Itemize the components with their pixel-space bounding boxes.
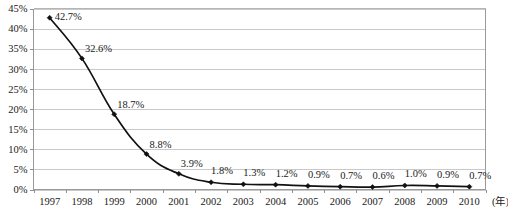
x-axis-tick-label: 2002 — [201, 196, 222, 207]
data-point-label: 0.9% — [437, 169, 459, 180]
data-point-label: 0.7% — [469, 170, 491, 181]
x-axis-tick-label: 2005 — [297, 196, 318, 207]
chart-canvas: 0%5%10%15%20%25%30%35%40%45% 19971998199… — [0, 0, 508, 219]
data-point-label: 32.6% — [85, 43, 112, 54]
x-axis-tick-label: 1998 — [71, 196, 92, 207]
data-point-label: 1.8% — [211, 165, 233, 176]
data-point-label: 0.7% — [340, 170, 362, 181]
y-axis-tick-label: 25% — [8, 84, 28, 95]
x-axis-tick-label: 2010 — [459, 196, 480, 207]
data-point-label: 1.3% — [243, 167, 265, 178]
x-axis-tick-label: 2009 — [427, 196, 448, 207]
data-point-label: 3.9% — [181, 158, 203, 169]
x-axis-title: (年) — [492, 195, 508, 208]
data-point-label: 0.6% — [373, 170, 395, 181]
y-axis-tick-label: 5% — [14, 164, 28, 175]
data-point-label: 1.2% — [276, 168, 298, 179]
y-axis-tick-label: 10% — [8, 144, 28, 155]
data-point-label: 42.7% — [55, 11, 82, 22]
data-point-label: 0.9% — [308, 169, 330, 180]
x-axis-tick-label: 1999 — [104, 196, 125, 207]
x-axis-tick-label: 2001 — [168, 196, 189, 207]
y-axis-tick-label: 0% — [14, 184, 28, 195]
x-axis-tick-label: 2000 — [136, 196, 157, 207]
y-axis-tick-label: 20% — [8, 104, 28, 115]
data-point-label: 8.8% — [150, 139, 172, 150]
x-axis-tick-label: 2008 — [394, 196, 415, 207]
y-axis-tick-label: 15% — [8, 124, 28, 135]
y-axis-tick-label: 45% — [8, 3, 28, 14]
x-axis-tick-label: 2003 — [233, 196, 254, 207]
data-point-label: 1.0% — [405, 168, 427, 179]
x-axis-tick-label: 2004 — [265, 196, 287, 207]
x-axis-tick-label: 1997 — [39, 196, 60, 207]
x-axis-tick-label: 2006 — [330, 196, 351, 207]
line-chart: 0%5%10%15%20%25%30%35%40%45% 19971998199… — [0, 0, 508, 219]
x-axis-tick-label: 2007 — [362, 196, 383, 207]
y-axis-tick-label: 30% — [8, 64, 28, 75]
data-point-label: 18.7% — [117, 99, 144, 110]
y-axis-tick-label: 35% — [8, 43, 28, 54]
y-axis-tick-label: 40% — [8, 23, 28, 34]
